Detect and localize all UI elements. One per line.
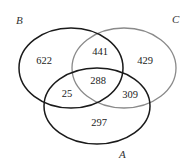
set-b-label: B bbox=[16, 14, 23, 26]
region-a-b-c: 288 bbox=[90, 75, 106, 86]
venn-diagram: B C A 622 441 429 288 25 309 297 bbox=[0, 0, 189, 168]
set-c-label: C bbox=[172, 13, 180, 25]
region-b-only: 622 bbox=[36, 55, 52, 66]
region-a-c: 309 bbox=[122, 89, 138, 100]
region-a-b: 25 bbox=[62, 88, 73, 99]
region-b-c: 441 bbox=[92, 46, 108, 57]
region-a-only: 297 bbox=[91, 117, 107, 128]
set-a-label: A bbox=[118, 148, 126, 160]
region-c-only: 429 bbox=[137, 55, 153, 66]
